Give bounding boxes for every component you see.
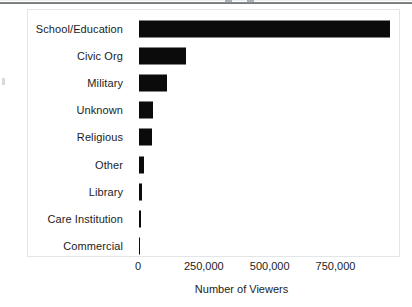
scan-artifact-line xyxy=(0,2,412,4)
bar[interactable] xyxy=(139,183,142,200)
bar[interactable] xyxy=(139,74,167,91)
bar[interactable] xyxy=(139,210,141,227)
bar-row: Other xyxy=(28,151,399,178)
bar-row: Commercial xyxy=(28,233,399,260)
plot-area: School/EducationCivic OrgMilitaryUnknown… xyxy=(28,10,399,256)
bar-category-label: Civic Org xyxy=(77,50,123,62)
bar[interactable] xyxy=(139,102,153,119)
x-axis-tick-label: 500,000 xyxy=(250,260,290,272)
bar[interactable] xyxy=(139,156,144,173)
bar-category-label: Military xyxy=(87,77,123,89)
bar-row: Military xyxy=(28,69,399,96)
bar-category-label: Unknown xyxy=(76,104,123,116)
scan-artifact-fleck-b xyxy=(247,0,254,2)
plot-panel: School/EducationCivic OrgMilitaryUnknown… xyxy=(27,9,400,257)
bar-row: School/Education xyxy=(28,15,399,42)
scan-artifact-fleck-edge xyxy=(2,78,5,85)
x-axis-tick-label: 750,000 xyxy=(316,260,356,272)
bar-category-label: Religious xyxy=(77,131,123,143)
bar-category-label: Other xyxy=(95,159,123,171)
bar-category-label: Commercial xyxy=(63,240,123,252)
x-axis-tick-label: 0 xyxy=(135,260,141,272)
bar[interactable] xyxy=(139,238,140,255)
bar[interactable] xyxy=(139,47,186,64)
bar[interactable] xyxy=(139,20,390,37)
bar-category-label: Care Institution xyxy=(47,213,123,225)
bar-row: Religious xyxy=(28,124,399,151)
x-axis-label-text: Number of Viewers xyxy=(195,283,288,295)
bar-category-label: Library xyxy=(89,186,123,198)
bar[interactable] xyxy=(139,129,152,146)
bar-row: Library xyxy=(28,178,399,205)
bar-chart-figure: School/EducationCivic OrgMilitaryUnknown… xyxy=(0,0,412,307)
x-axis-tick-label: 250,000 xyxy=(184,260,224,272)
x-axis-label: Number of Viewers xyxy=(27,283,400,295)
bar-row: Civic Org xyxy=(28,42,399,69)
bar-category-label: School/Education xyxy=(36,23,123,35)
bar-row: Unknown xyxy=(28,97,399,124)
scan-artifact-line-top xyxy=(0,0,412,1)
x-axis: 0250,000500,000750,000 xyxy=(27,258,400,278)
bar-row: Care Institution xyxy=(28,205,399,232)
scan-artifact-fleck-a xyxy=(225,0,232,2)
